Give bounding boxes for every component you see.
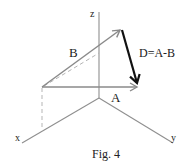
vector-d-label: D=A-B (139, 46, 175, 60)
vector-diagram: z x y B D=A-B A Fig. 4 (0, 0, 191, 165)
x-axis-label: x (15, 132, 20, 143)
figure-caption: Fig. 4 (92, 147, 120, 161)
vector-b-arrow (42, 30, 120, 87)
vector-d-arrow (122, 30, 137, 83)
vector-a-label: A (111, 90, 121, 105)
y-axis-label: y (171, 132, 176, 143)
vector-b-label: B (69, 45, 78, 60)
x-axis (22, 98, 99, 143)
z-axis-label: z (90, 8, 95, 19)
axes (22, 12, 173, 143)
